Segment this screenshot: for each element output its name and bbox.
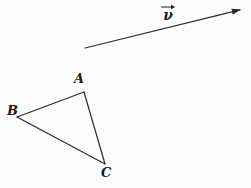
vector-label-text: ν — [156, 8, 180, 22]
vertex-label-b: B — [7, 104, 18, 117]
triangle-edge-ac — [84, 92, 105, 164]
triangle-abc-group — [17, 92, 105, 164]
vertex-label-a: A — [74, 72, 84, 85]
vector-and-triangle-figure: ν A B C — [0, 0, 251, 188]
vertex-label-c: C — [101, 166, 111, 179]
triangle-edge-bc — [17, 117, 105, 164]
vector-label: ν — [156, 2, 180, 24]
triangle-edge-ab — [17, 92, 84, 117]
figure-drawing-surface — [0, 0, 251, 188]
